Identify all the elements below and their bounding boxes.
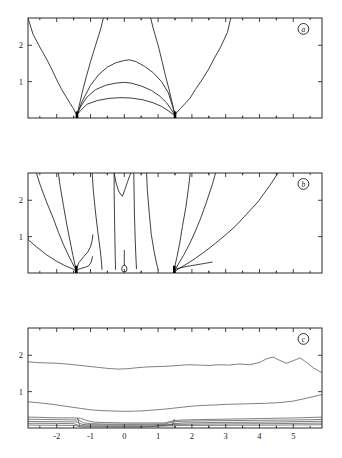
- plot-frame: [28, 328, 322, 428]
- contour-path: [174, 173, 191, 271]
- contour-figure: -2-101234512a-2-101234512b-2-101234512xc: [0, 0, 342, 458]
- contour-path: [151, 18, 175, 115]
- y-tick-label: 2: [19, 350, 23, 360]
- axis-tick-labels: -2-101234512: [19, 40, 296, 120]
- panel-badge-text: b: [302, 180, 306, 189]
- x-tick-label: 3: [224, 431, 228, 440]
- panel-b: -2-101234512b: [0, 155, 342, 275]
- x-tick-label: -1: [87, 431, 94, 440]
- contour-path: [78, 418, 80, 426]
- contour-lines: [28, 173, 278, 273]
- axis-ticks: [28, 328, 322, 428]
- contour-path: [28, 18, 77, 115]
- contour-path: [28, 237, 76, 271]
- axis-ticks: [28, 18, 322, 118]
- contour-path: [134, 173, 137, 269]
- panel-badge-text: c: [302, 335, 306, 344]
- contour-path: [28, 395, 322, 412]
- x-tick-label: 4: [257, 431, 262, 440]
- contour-path: [36, 173, 76, 271]
- panel-a: -2-101234512a: [0, 0, 342, 120]
- contour-path: [174, 173, 216, 271]
- plot-frame: [28, 173, 322, 273]
- x-tick-label: 1: [156, 431, 160, 440]
- x-tick-label: 0: [122, 431, 126, 440]
- panel-c: -2-101234512xc: [0, 310, 342, 440]
- x-tick-label: 5: [291, 431, 295, 440]
- panel-badge-c: c: [298, 334, 309, 345]
- contour-lines: [28, 357, 322, 427]
- panel-badge-text: a: [302, 25, 306, 34]
- contour-path: [175, 262, 212, 269]
- panel-badge-a: a: [298, 24, 309, 35]
- contour-lines: [28, 18, 231, 118]
- y-tick-label: 2: [19, 195, 23, 205]
- contour-path: [28, 357, 322, 373]
- x-tick-label: -2: [53, 431, 60, 440]
- contour-path: [176, 173, 278, 271]
- plot-frame: [28, 18, 322, 118]
- axis-ticks: [28, 173, 322, 273]
- panel-badge-b: b: [298, 179, 309, 190]
- contour-path: [175, 18, 231, 115]
- y-tick-label: 2: [19, 40, 23, 50]
- contour-path: [147, 173, 158, 269]
- contour-path: [58, 173, 76, 271]
- contour-path: [114, 173, 115, 269]
- contour-path: [92, 173, 102, 269]
- contour-path: [77, 82, 175, 115]
- y-tick-label: 1: [19, 77, 23, 87]
- contour-path: [76, 235, 93, 270]
- contour-path: [114, 173, 122, 196]
- contour-path: [76, 98, 175, 117]
- x-tick-label: 2: [190, 431, 194, 440]
- y-tick-label: 1: [19, 387, 23, 397]
- y-tick-label: 1: [19, 232, 23, 242]
